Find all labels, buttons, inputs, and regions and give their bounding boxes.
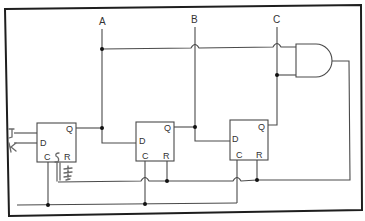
wire-a-to-and <box>102 44 296 50</box>
wire-a <box>76 29 136 143</box>
ff3-r-label: R <box>256 150 263 160</box>
and-gate <box>296 44 332 77</box>
ff1-d-label: D <box>40 138 47 148</box>
hand-scribble <box>64 166 72 180</box>
ff2-q-label: Q <box>164 123 171 133</box>
ff2-d-label: D <box>139 136 146 146</box>
hand-s-wire <box>57 162 60 181</box>
ff1-c-label: C <box>44 152 51 162</box>
wire-and-output <box>257 61 350 180</box>
ff3-c-label: C <box>236 150 243 160</box>
wire-reset-bus <box>58 160 257 182</box>
ff1-r-label: R <box>64 152 71 162</box>
ff1-q-label: Q <box>66 124 73 134</box>
hand-k-mark <box>9 143 16 152</box>
output-label-a: A <box>99 16 106 27</box>
hand-j-mark <box>9 129 14 138</box>
ff3-q-label: Q <box>258 122 265 132</box>
output-label-c: C <box>273 14 280 25</box>
flip-flop-2: D Q C R <box>136 122 174 161</box>
wire-b <box>174 27 230 141</box>
ff2-c-label: C <box>142 151 149 161</box>
outer-frame <box>5 5 362 216</box>
wire-ff1-inputs <box>14 133 37 143</box>
ff2-r-label: R <box>163 151 170 161</box>
ff3-d-label: D <box>232 134 239 144</box>
wire-c <box>268 27 296 125</box>
wire-clock-bus <box>17 160 237 205</box>
output-label-b: B <box>191 14 198 25</box>
flip-flop-3: D Q C R <box>230 120 268 160</box>
circuit-diagram: A B C <box>0 0 365 221</box>
